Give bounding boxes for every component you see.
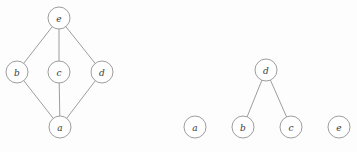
graph-node-b: b xyxy=(6,61,28,83)
graph-edge-d-a xyxy=(67,81,96,119)
graph-node-a: a xyxy=(49,116,71,138)
nodes-layer: ebcdadabce xyxy=(6,7,350,138)
graph-node-label-e: e xyxy=(56,14,61,24)
graph-node-label-b: b xyxy=(240,123,246,133)
graph-node-label-c: c xyxy=(56,68,61,78)
graph-edge-b-a xyxy=(24,81,53,119)
graph-node-label-a: a xyxy=(57,123,62,133)
forest-graph-nodes: dabce xyxy=(184,59,350,138)
graph-edge-e-b xyxy=(24,27,53,64)
graph-edge-d-b xyxy=(247,80,262,117)
graph-node-label-a: a xyxy=(192,123,197,133)
graph-canvas: ebcdadabce xyxy=(0,0,357,152)
graph-node-label-d: d xyxy=(99,68,105,78)
graph-edge-d-c xyxy=(270,80,286,117)
graph-node-label-d: d xyxy=(263,66,269,76)
graph-node-label-c: c xyxy=(288,123,293,133)
graph-node-b: b xyxy=(232,116,254,138)
forest-graph-edges xyxy=(247,80,286,117)
graph-node-label-b: b xyxy=(14,68,20,78)
graph-node-e: e xyxy=(48,7,70,29)
figure-container: ebcdadabce xyxy=(0,0,357,152)
graph-node-e: e xyxy=(328,116,350,138)
graph-node-c: c xyxy=(280,116,302,138)
graph-edge-c-a xyxy=(59,83,60,116)
graph-node-d: d xyxy=(91,61,113,83)
graph-node-d: d xyxy=(255,59,277,81)
graph-node-a: a xyxy=(184,116,206,138)
graph-node-c: c xyxy=(48,61,70,83)
diamond-lattice-graph-nodes: ebcda xyxy=(6,7,113,138)
graph-edge-e-d xyxy=(66,27,95,64)
graph-node-label-e: e xyxy=(336,123,341,133)
